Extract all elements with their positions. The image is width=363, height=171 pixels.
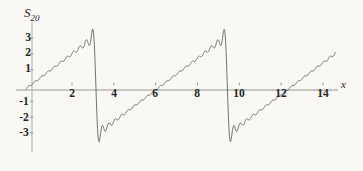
x-tick-label-8: 8 (187, 88, 207, 100)
x-tick-label-12: 12 (271, 88, 291, 100)
y-tick-label--3: -3 (14, 127, 34, 139)
x-tick-label-10: 10 (229, 88, 249, 100)
y-tick-label--2: -2 (14, 112, 34, 124)
fourier-partial-sum-figure: S20 x 321-1-2-32468101214 (0, 0, 363, 171)
x-axis-title: x (341, 79, 346, 90)
y-tick-label-3: 3 (18, 32, 38, 44)
y-tick-label--1: -1 (14, 96, 34, 108)
plot-canvas (0, 0, 363, 171)
axes-group (16, 22, 338, 152)
x-tick-label-4: 4 (104, 88, 124, 100)
x-axis-ticks (72, 83, 323, 86)
y-tick-label-1: 1 (18, 63, 38, 75)
x-tick-label-6: 6 (145, 88, 165, 100)
x-tick-label-14: 14 (313, 88, 333, 100)
x-tick-label-2: 2 (62, 88, 82, 100)
y-axis-title: S20 (24, 6, 40, 23)
y-axis-title-subscript: 20 (31, 13, 40, 23)
y-tick-label-2: 2 (18, 47, 38, 59)
